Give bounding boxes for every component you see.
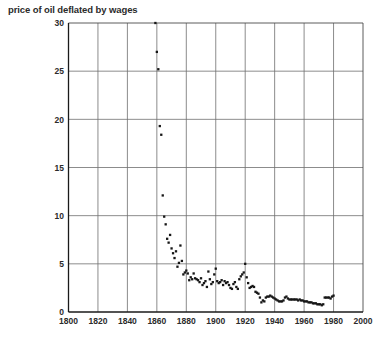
data-point: [222, 284, 224, 286]
x-tick-label: 1820: [88, 316, 107, 326]
scatter-plot: 1800182018401860188019001920194019601980…: [0, 0, 380, 344]
data-point: [200, 277, 202, 279]
data-point: [191, 278, 193, 280]
y-tick-label: 20: [55, 115, 65, 125]
data-point: [173, 257, 175, 259]
data-point: [322, 303, 324, 305]
data-point: [282, 299, 284, 301]
data-point: [244, 263, 246, 265]
x-tick-label: 1960: [295, 316, 314, 326]
data-point: [162, 194, 164, 196]
data-point: [213, 273, 215, 275]
data-point: [166, 238, 168, 240]
data-point: [243, 271, 245, 273]
data-point: [204, 280, 206, 282]
data-point: [212, 281, 214, 283]
data-point: [157, 68, 159, 70]
axis-tick-labels: 1800182018401860188019001920194019601980…: [55, 18, 373, 325]
data-point: [215, 268, 217, 270]
data-point: [175, 250, 177, 252]
data-point: [231, 288, 233, 290]
data-point: [167, 241, 169, 243]
y-tick-label: 25: [55, 66, 65, 76]
data-point: [188, 279, 190, 281]
y-tick-label: 0: [59, 307, 64, 317]
data-point: [198, 281, 200, 283]
y-tick-label: 15: [55, 163, 65, 173]
data-point: [226, 281, 228, 283]
x-tick-label: 2000: [354, 316, 373, 326]
x-tick-label: 1940: [265, 316, 284, 326]
data-point: [257, 293, 259, 295]
x-tick-label: 1840: [118, 316, 137, 326]
chart-figure: price of oil deflated by wages 180018201…: [0, 0, 380, 344]
y-tick-label: 5: [59, 259, 64, 269]
data-point: [165, 223, 167, 225]
y-tick-label: 30: [55, 18, 65, 28]
data-point: [187, 272, 189, 274]
data-point: [246, 276, 248, 278]
x-tick-label: 1920: [236, 316, 255, 326]
data-point: [209, 278, 211, 280]
data-point: [159, 125, 161, 127]
data-point: [179, 244, 181, 246]
data-point: [181, 260, 183, 262]
data-point: [263, 300, 265, 302]
data-point: [247, 282, 249, 284]
data-point: [178, 262, 180, 264]
data-point: [172, 252, 174, 254]
data-point: [170, 247, 172, 249]
data-point: [259, 296, 261, 298]
data-point: [207, 270, 209, 272]
data-point: [234, 281, 236, 283]
data-point: [206, 286, 208, 288]
data-point: [176, 266, 178, 268]
data-point: [169, 234, 171, 236]
data-point: [154, 22, 156, 24]
x-tick-label: 1880: [177, 316, 196, 326]
data-point: [163, 215, 165, 217]
data-point: [185, 269, 187, 271]
data-point: [160, 134, 162, 136]
data-point: [332, 294, 334, 296]
data-point: [237, 288, 239, 290]
data-point: [228, 284, 230, 286]
data-point: [238, 278, 240, 280]
x-tick-label: 1980: [324, 316, 343, 326]
data-point: [253, 286, 255, 288]
data-point: [193, 272, 195, 274]
data-point: [220, 279, 222, 281]
data-point: [156, 51, 158, 53]
x-tick-label: 1900: [206, 316, 225, 326]
x-tick-label: 1860: [147, 316, 166, 326]
y-tick-label: 10: [55, 211, 65, 221]
